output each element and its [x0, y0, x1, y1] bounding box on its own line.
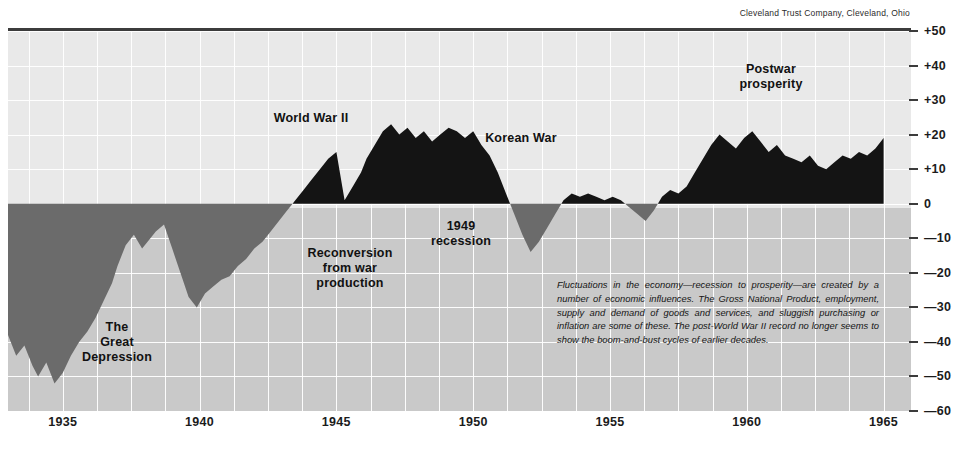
- annotation-great-depression-label: TheGreatDepression: [82, 320, 152, 364]
- attribution-text: Cleveland Trust Company, Cleveland, Ohio: [740, 8, 910, 18]
- y-tick-label--20: —20: [924, 266, 951, 280]
- y-tick-mark--40: [909, 341, 918, 343]
- y-tick-mark--30: [909, 306, 918, 308]
- y-tick-label-10: +10: [924, 162, 946, 176]
- y-tick-label-20: +20: [924, 128, 946, 142]
- chart-caption: Fluctuations in the economy—recession to…: [557, 278, 879, 347]
- y-tick-mark-50: [909, 30, 918, 32]
- y-tick-label--50: —50: [924, 369, 951, 383]
- annotation-postwar-prosperity: Postwarprosperity: [716, 62, 826, 92]
- y-tick-label--10: —10: [924, 231, 951, 245]
- annotation-world-war-2: World War II: [251, 111, 371, 126]
- annotation-great-depression: TheGreatDepression: [62, 320, 172, 364]
- y-tick-label-40: +40: [924, 59, 946, 73]
- y-tick-mark-30: [909, 99, 918, 101]
- annotation-postwar-prosperity-label: Postwarprosperity: [739, 62, 802, 91]
- x-axis: 1935194019451950195519601965: [8, 415, 911, 441]
- y-tick-label-30: +30: [924, 93, 946, 107]
- annotation-1949-recession-label: 1949recession: [431, 219, 491, 248]
- y-tick-mark--50: [909, 375, 918, 377]
- y-tick-mark--20: [909, 272, 918, 274]
- y-tick-mark-0: [909, 203, 918, 205]
- x-tick-label-1945: 1945: [322, 415, 351, 429]
- annotation-reconversion: Reconversionfrom warproduction: [294, 246, 406, 290]
- annotation-world-war-2-label: World War II: [274, 111, 349, 125]
- y-tick-mark-40: [909, 65, 918, 67]
- annotation-korean-war-label: Korean War: [485, 131, 557, 145]
- y-axis: +50+40+30+20+100—10—20—30—40—50—60: [918, 31, 974, 411]
- y-tick-label--60: —60: [924, 404, 951, 418]
- annotation-1949-recession: 1949recession: [413, 219, 509, 249]
- y-tick-label--40: —40: [924, 335, 951, 349]
- y-tick-label-50: +50: [924, 24, 946, 38]
- x-tick-label-1960: 1960: [732, 415, 761, 429]
- y-tick-mark--60: [909, 410, 918, 412]
- x-tick-label-1965: 1965: [869, 415, 898, 429]
- x-tick-label-1955: 1955: [595, 415, 624, 429]
- y-tick-label-0: 0: [924, 197, 931, 211]
- y-tick-mark--10: [909, 237, 918, 239]
- x-tick-label-1935: 1935: [48, 415, 77, 429]
- y-tick-mark-10: [909, 168, 918, 170]
- positive-area-path: [293, 124, 884, 203]
- annotation-korean-war: Korean War: [466, 131, 576, 146]
- x-tick-label-1950: 1950: [459, 415, 488, 429]
- y-tick-mark-20: [909, 134, 918, 136]
- y-tick-label--30: —30: [924, 300, 951, 314]
- annotation-reconversion-label: Reconversionfrom warproduction: [307, 246, 392, 290]
- x-tick-label-1940: 1940: [185, 415, 214, 429]
